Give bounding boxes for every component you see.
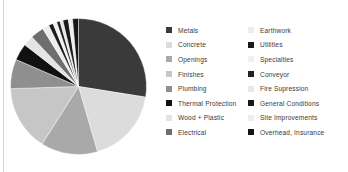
legend-label-site-improvements: Site Improvements [260, 114, 318, 121]
legend-label-conveyor: Conveyor [260, 71, 289, 78]
legend-swatch-overhead-insurance [248, 129, 254, 135]
legend-item-plumbing[interactable]: Plumbing [166, 81, 248, 96]
pie-slice[interactable] [79, 19, 147, 98]
legend-label-specialties: Specialties [260, 56, 294, 63]
legend-label-earthwork: Earthwork [260, 27, 291, 34]
legend-label-thermal-protection: Thermal Protection [178, 100, 236, 107]
left-border-rule [3, 0, 4, 172]
legend-swatch-general-conditions [248, 100, 254, 106]
legend-swatch-site-improvements [248, 115, 254, 121]
legend-swatch-openings [166, 56, 172, 62]
legend-label-general-conditions: General Conditions [260, 100, 319, 107]
legend-swatch-conveyor [248, 71, 254, 77]
legend-label-concrete: Concrete [178, 41, 206, 48]
legend-item-electrical[interactable]: Electrical [166, 125, 248, 140]
legend-label-fire-supression: Fire Supression [260, 85, 308, 92]
pie-chart [10, 4, 160, 170]
legend-label-electrical: Electrical [178, 129, 206, 136]
legend-swatch-wood-plastic [166, 115, 172, 121]
pie-chart-svg [10, 4, 160, 170]
legend-item-concrete[interactable]: Concrete [166, 38, 248, 53]
legend-item-thermal-protection[interactable]: Thermal Protection [166, 96, 248, 111]
legend-label-wood-plastic: Wood + Plastic [178, 114, 224, 121]
legend-swatch-specialties [248, 56, 254, 62]
chart-page: Metals Concrete Openings Finishes Plumbi… [0, 0, 348, 172]
legend-item-openings[interactable]: Openings [166, 52, 248, 67]
legend-swatch-fire-supression [248, 86, 254, 92]
legend-label-utilities: Utilities [260, 41, 283, 48]
legend-item-wood-plastic[interactable]: Wood + Plastic [166, 111, 248, 126]
legend-item-specialties[interactable]: Specialties [248, 52, 346, 67]
legend-swatch-electrical [166, 129, 172, 135]
legend-label-finishes: Finishes [178, 71, 204, 78]
legend-item-metals[interactable]: Metals [166, 23, 248, 38]
legend-item-finishes[interactable]: Finishes [166, 67, 248, 82]
legend-label-openings: Openings [178, 56, 207, 63]
legend-item-general-conditions[interactable]: General Conditions [248, 96, 346, 111]
pie-chart-plot-area [10, 4, 160, 170]
legend-item-overhead-insurance[interactable]: Overhead, Insurance [248, 125, 346, 140]
legend-swatch-earthwork [248, 27, 254, 33]
legend-swatch-thermal-protection [166, 100, 172, 106]
legend-swatch-utilities [248, 42, 254, 48]
legend-item-site-improvements[interactable]: Site Improvements [248, 111, 346, 126]
chart-legend: Metals Concrete Openings Finishes Plumbi… [166, 23, 346, 143]
legend-item-earthwork[interactable]: Earthwork [248, 23, 346, 38]
legend-item-conveyor[interactable]: Conveyor [248, 67, 346, 82]
legend-swatch-plumbing [166, 86, 172, 92]
legend-label-plumbing: Plumbing [178, 85, 207, 92]
legend-label-metals: Metals [178, 27, 198, 34]
legend-column-1: Metals Concrete Openings Finishes Plumbi… [166, 23, 248, 143]
legend-column-2: Earthwork Utilities Specialties Conveyor… [248, 23, 346, 143]
legend-label-overhead-insurance: Overhead, Insurance [260, 129, 324, 136]
legend-item-utilities[interactable]: Utilities [248, 38, 346, 53]
legend-item-fire-supression[interactable]: Fire Supression [248, 81, 346, 96]
legend-swatch-finishes [166, 71, 172, 77]
legend-swatch-metals [166, 27, 172, 33]
legend-swatch-concrete [166, 42, 172, 48]
